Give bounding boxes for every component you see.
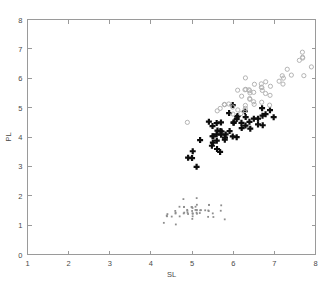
series-virginica-points — [185, 50, 313, 124]
data-point-setosa — [171, 216, 173, 218]
x-tick-label: 7 — [272, 259, 276, 268]
data-point-setosa — [167, 213, 169, 215]
data-point-versicolor — [227, 128, 233, 134]
data-point-versicolor — [189, 155, 195, 161]
data-point-versicolor — [255, 121, 261, 127]
data-point-virginica — [285, 67, 289, 71]
data-point-setosa — [175, 213, 177, 215]
y-tick-label: 1 — [18, 221, 22, 230]
data-point-virginica — [227, 102, 231, 106]
data-point-setosa — [196, 209, 198, 211]
data-point-versicolor — [206, 119, 212, 125]
data-point-virginica — [289, 73, 293, 77]
data-point-setosa — [204, 209, 206, 211]
axes-box — [28, 20, 316, 255]
y-tick-label: 7 — [18, 45, 22, 54]
data-point-versicolor — [194, 164, 200, 170]
data-point-virginica — [236, 108, 240, 112]
x-axis-label: SL — [167, 270, 176, 279]
y-tick-label: 5 — [18, 104, 22, 113]
x-tick-label: 3 — [108, 259, 112, 268]
data-point-virginica — [243, 76, 247, 80]
data-point-setosa — [191, 218, 193, 220]
data-point-setosa — [183, 198, 185, 200]
plot-canvas: 12345678 012345678 SL PL — [0, 0, 336, 289]
x-tick-label: 1 — [25, 259, 29, 268]
data-point-setosa — [207, 216, 209, 218]
data-point-setosa — [220, 204, 222, 206]
data-point-versicolor — [190, 148, 196, 154]
data-point-virginica — [236, 88, 240, 92]
data-point-setosa — [183, 212, 185, 214]
plot-frame — [28, 20, 316, 255]
data-point-setosa — [195, 206, 197, 208]
data-point-virginica — [300, 50, 304, 54]
data-point-virginica — [264, 80, 268, 84]
data-point-virginica — [240, 94, 244, 98]
data-point-setosa — [186, 210, 188, 212]
data-point-setosa — [183, 206, 185, 208]
y-tick-label: 3 — [18, 162, 22, 171]
data-point-setosa — [179, 215, 181, 217]
y-tick-label: 0 — [18, 251, 22, 260]
x-tick-label: 2 — [67, 259, 71, 268]
series-versicolor-points — [185, 102, 277, 170]
y-tick-label: 4 — [18, 133, 22, 142]
data-point-setosa — [212, 216, 214, 218]
data-point-setosa — [179, 206, 181, 208]
data-point-virginica — [215, 109, 219, 113]
data-point-setosa — [166, 215, 168, 217]
data-point-setosa — [208, 204, 210, 206]
y-tick-label: 2 — [18, 192, 22, 201]
x-tick-label: 8 — [313, 259, 317, 268]
data-point-setosa — [175, 224, 177, 226]
data-point-virginica — [252, 100, 256, 104]
data-point-versicolor — [243, 114, 249, 120]
y-axis-label: PL — [4, 132, 13, 141]
scatter-plot-figure: 12345678 012345678 SL PL — [0, 0, 336, 289]
data-point-setosa — [187, 212, 189, 214]
data-point-virginica — [268, 84, 272, 88]
data-point-versicolor — [271, 114, 277, 120]
x-axis-ticks: 12345678 — [25, 20, 317, 268]
data-point-virginica — [260, 100, 264, 104]
data-point-setosa — [196, 197, 198, 199]
data-point-setosa — [212, 212, 214, 214]
data-point-setosa — [224, 218, 226, 220]
data-point-setosa — [196, 213, 198, 215]
data-point-setosa — [191, 210, 193, 212]
data-point-virginica — [185, 120, 189, 124]
y-axis-ticks: 012345678 — [18, 16, 315, 260]
x-tick-label: 4 — [149, 259, 153, 268]
data-point-virginica — [309, 65, 313, 69]
data-point-setosa — [199, 212, 201, 214]
data-point-setosa — [220, 210, 222, 212]
data-point-virginica — [281, 82, 285, 86]
data-point-setosa — [191, 206, 193, 208]
data-point-setosa — [207, 210, 209, 212]
data-point-setosa — [199, 209, 201, 211]
series-setosa-points — [163, 197, 226, 225]
data-point-virginica — [302, 74, 306, 78]
data-point-versicolor — [234, 134, 240, 140]
data-point-virginica — [239, 112, 243, 116]
data-point-setosa — [174, 210, 176, 212]
y-tick-label: 6 — [18, 74, 22, 83]
y-tick-label: 8 — [18, 16, 22, 25]
data-point-setosa — [192, 215, 194, 217]
data-point-setosa — [196, 204, 198, 206]
data-point-versicolor — [259, 105, 265, 111]
data-point-setosa — [163, 222, 165, 224]
data-point-setosa — [192, 213, 194, 215]
data-point-virginica — [252, 82, 256, 86]
x-tick-label: 5 — [190, 259, 194, 268]
data-point-virginica — [267, 103, 271, 107]
data-point-versicolor — [267, 107, 273, 113]
x-tick-label: 6 — [231, 259, 235, 268]
data-point-virginica — [277, 79, 281, 83]
data-point-versicolor — [197, 137, 203, 143]
data-point-virginica — [268, 93, 272, 97]
